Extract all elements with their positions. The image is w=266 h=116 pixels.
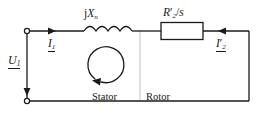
mesh-current-loop-arrowhead-icon (92, 78, 101, 86)
equivalent-circuit-diagram: jXn R′2/s U1 I1 I′2 Stator Rotor (0, 0, 266, 116)
reactance-subscript: n (94, 13, 98, 21)
input-terminal-top-icon (24, 28, 29, 33)
rotor-region-label: Rotor (146, 92, 170, 103)
reactance-label: jXn (84, 8, 98, 21)
reactance-coil-icon (84, 27, 132, 32)
rotor-current-subscript: 2 (222, 43, 226, 51)
resistance-label: R′2/s (163, 7, 184, 20)
stator-region-label: Stator (92, 92, 117, 103)
input-terminal-bottom-icon (24, 98, 29, 103)
slip-symbol: s (179, 6, 183, 18)
source-voltage-arrow-icon (24, 88, 31, 96)
source-voltage-label: U1 (8, 54, 20, 69)
source-voltage-subscript: 1 (17, 59, 21, 68)
stator-current-label: I1 (48, 38, 55, 52)
rotor-current-label: I′2 (216, 38, 226, 52)
rotor-current-arrow-icon (218, 28, 226, 35)
mesh-current-loop-icon (88, 47, 124, 83)
stator-current-subscript: 1 (52, 43, 56, 51)
circuit-schematic (0, 0, 266, 116)
rotor-resistance-box-icon (161, 23, 203, 40)
resistance-symbol: R (163, 6, 170, 18)
source-voltage-symbol: U (8, 53, 17, 67)
stator-current-arrow-icon (48, 28, 56, 35)
